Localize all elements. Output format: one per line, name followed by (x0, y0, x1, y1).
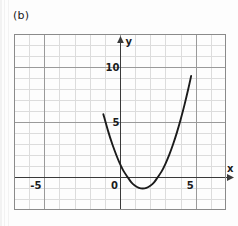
scan-band-left-2 (4, 0, 5, 226)
figure-page: (b) -505510y x (0, 0, 238, 226)
y-tick-label: 10 (106, 62, 120, 73)
y-axis-label: y (126, 36, 133, 47)
y-tick-label: 5 (113, 117, 120, 128)
graph-svg: -505510y (14, 34, 226, 210)
x-tick-label: 0 (111, 180, 118, 191)
x-tick-label: -5 (30, 180, 41, 191)
x-tick-label: 5 (187, 180, 194, 191)
scan-band-left-3 (8, 0, 9, 226)
axis-overhang-group: x (226, 163, 234, 181)
plot-area: -505510y (14, 34, 226, 210)
x-axis-label: x (227, 163, 234, 174)
scan-band-left-1 (0, 0, 2, 226)
panel-label: (b) (13, 9, 29, 22)
